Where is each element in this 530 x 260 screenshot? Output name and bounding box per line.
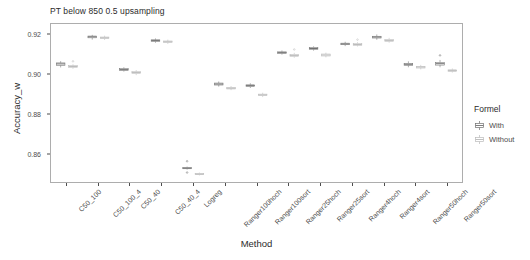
boxplot-box [385, 38, 394, 43]
x-tick-mark [98, 183, 99, 186]
boxplot-box [227, 86, 236, 90]
y-tick-label: 0.92 [27, 31, 41, 38]
boxplot-box [69, 61, 78, 69]
boxplot-box [258, 93, 267, 97]
x-tick-mark [225, 183, 226, 186]
x-tick-label: C50_40_4 [174, 188, 202, 216]
boxplot-box [290, 49, 299, 58]
legend-key-icon [474, 134, 485, 145]
legend-label: Without [489, 135, 514, 144]
y-axis-title: Accuracy_w [11, 59, 22, 159]
boxplot-box [341, 42, 350, 46]
x-axis-title: Method [50, 238, 463, 249]
boxplot-box [436, 55, 445, 68]
boxplot-series-layer [51, 24, 462, 182]
x-tick-label: C50_100 [77, 188, 102, 213]
x-tick-label: C50_40 [140, 188, 162, 210]
x-tick-mark [257, 183, 258, 186]
x-tick-mark [161, 183, 162, 186]
legend-item[interactable]: Without [474, 133, 530, 146]
plot-panel [50, 23, 463, 183]
boxplot-box [322, 53, 331, 58]
legend-title: Formel [474, 104, 530, 114]
boxplot-box [195, 173, 204, 176]
legend-item[interactable]: With [474, 119, 530, 132]
boxplot-box [353, 39, 362, 47]
boxplot-box [100, 36, 109, 40]
x-tick-mark [320, 183, 321, 186]
x-tick-mark [447, 183, 448, 186]
boxplot-box [416, 65, 425, 70]
x-tick-mark [129, 183, 130, 186]
x-tick-mark [288, 183, 289, 186]
boxplot-box [183, 160, 192, 173]
boxplot-box [214, 81, 223, 86]
y-tick-label: 0.90 [27, 71, 41, 78]
legend-label: With [489, 121, 504, 130]
boxplot-box [404, 61, 413, 67]
boxplot-box [448, 68, 457, 72]
x-tick-mark [66, 183, 67, 186]
boxplot-box [309, 46, 318, 50]
x-tick-label: Logreg [202, 188, 222, 208]
legend-key-icon [474, 120, 485, 131]
y-tick-label: 0.88 [27, 111, 41, 118]
chart-title: PT below 850 0.5 upsampling [50, 6, 165, 16]
legend: Formel WithWithout [474, 104, 530, 147]
x-tick-label: Ranger4hoch [367, 188, 402, 223]
boxplot-box [372, 34, 381, 39]
x-axis: C50_100C50_100_4C50_40C50_40_4LogregRang… [50, 183, 463, 243]
boxplot-box [132, 70, 141, 75]
x-tick-label: Ranger4sort [398, 188, 430, 220]
x-tick-mark [193, 183, 194, 186]
chart-root: PT below 850 0.5 upsampling 0.860.880.90… [0, 0, 530, 260]
boxplot-box [120, 67, 129, 71]
x-tick-label: C50_100_4 [111, 188, 142, 219]
boxplot-box [164, 40, 173, 44]
legend-items: WithWithout [474, 119, 530, 146]
boxplot-box [56, 61, 65, 67]
x-tick-mark [384, 183, 385, 186]
y-axis: 0.860.880.900.92 [0, 23, 50, 183]
boxplot-box [246, 83, 255, 88]
x-tick-mark [352, 183, 353, 186]
boxplot-box [88, 35, 97, 40]
boxplot-box [278, 50, 287, 54]
boxplot-box [151, 38, 160, 42]
x-tick-mark [415, 183, 416, 186]
y-tick-label: 0.86 [27, 151, 41, 158]
